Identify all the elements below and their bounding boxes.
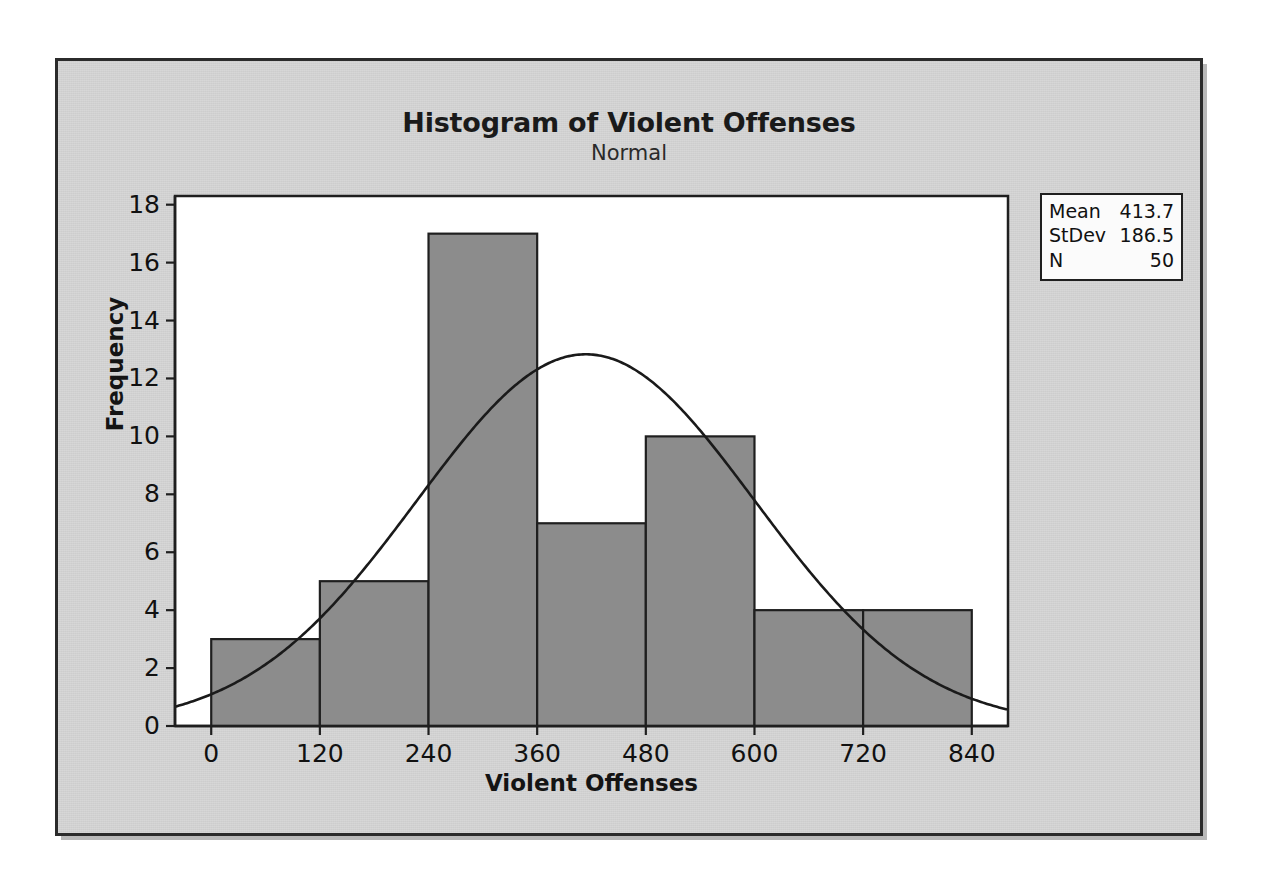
x-axis-tick-label: 240 — [405, 739, 453, 768]
x-axis-title: Violent Offenses — [175, 770, 1008, 796]
y-axis-tick-label: 4 — [144, 595, 160, 624]
y-axis-tick-label: 14 — [128, 306, 160, 335]
x-axis-tick-label: 840 — [948, 739, 996, 768]
histogram-plot: 024681012141618 0120240360480600720840 — [58, 61, 1206, 839]
y-axis-tick-label: 18 — [128, 190, 160, 219]
y-axis-tick-label: 6 — [144, 537, 160, 566]
stats-label: N — [1049, 249, 1113, 273]
x-axis-tick-label: 0 — [203, 739, 219, 768]
stats-legend-box: Mean413.7StDev186.5N50 — [1040, 193, 1183, 281]
histogram-bar — [537, 523, 646, 726]
y-axis-title: Frequency — [102, 264, 128, 464]
y-axis-tick-label: 2 — [144, 653, 160, 682]
histogram-bar — [754, 610, 863, 726]
stats-label: StDev — [1049, 224, 1113, 248]
chart-subtitle: Normal — [58, 141, 1200, 165]
histogram-bar — [863, 610, 972, 726]
stats-label: Mean — [1049, 200, 1113, 224]
y-axis-tick-label: 10 — [128, 421, 160, 450]
x-axis-tick-label: 480 — [622, 739, 670, 768]
stats-value: 413.7 — [1113, 200, 1174, 224]
chart-title: Histogram of Violent Offenses — [58, 107, 1200, 138]
x-axis-ticks: 0120240360480600720840 — [203, 726, 995, 768]
y-axis-ticks: 024681012141618 — [128, 190, 175, 740]
x-axis-tick-label: 360 — [513, 739, 561, 768]
y-axis-tick-label: 16 — [128, 248, 160, 277]
stats-row: StDev186.5 — [1049, 224, 1174, 248]
x-axis-tick-label: 120 — [296, 739, 344, 768]
stats-value: 186.5 — [1113, 224, 1174, 248]
y-axis-tick-label: 12 — [128, 363, 160, 392]
graph-panel: Histogram of Violent Offenses Normal 024… — [55, 58, 1203, 836]
stats-row: N50 — [1049, 249, 1174, 273]
y-axis-tick-label: 0 — [144, 711, 160, 740]
stats-row: Mean413.7 — [1049, 200, 1174, 224]
x-axis-tick-label: 600 — [731, 739, 779, 768]
y-axis-tick-label: 8 — [144, 479, 160, 508]
stats-value: 50 — [1113, 249, 1174, 273]
x-axis-tick-label: 720 — [839, 739, 887, 768]
histogram-bar — [211, 639, 320, 726]
histogram-bar — [429, 234, 538, 726]
stats-table: Mean413.7StDev186.5N50 — [1049, 200, 1174, 273]
